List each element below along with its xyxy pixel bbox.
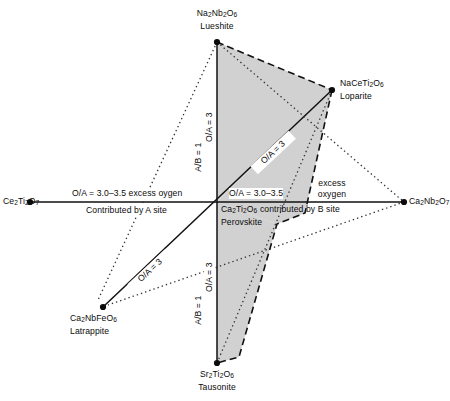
right-lower-annotation: contributed by B site — [260, 204, 340, 214]
ca2nb2o7-formula: Ca2Nb2O7 — [409, 196, 450, 206]
ce2ti2o7-formula: Ce2Ti2O7 — [3, 196, 39, 206]
vertex-dot-lueshite — [214, 39, 220, 45]
vertex-label-lueshite: Na2Nb2O6 Lueshite — [167, 8, 267, 31]
vertex-label-ca2nb2o7: Ca2Nb2O7 — [409, 196, 450, 209]
vertex-label-latrappite: Ca2NbFeO6 Latrappite — [70, 313, 117, 336]
vertex-label-perovskite: Ca2Ti2O6 contributed by B site Perovskit… — [221, 204, 340, 227]
excess-line-1: excess — [318, 178, 345, 188]
axis-label-lower-oa: O/A = 3 — [204, 249, 215, 305]
tausonite-formula: Sr2Ti2O6 — [200, 369, 234, 379]
excess-line-2: oxygen — [318, 189, 346, 199]
vertex-dot-latrappite — [100, 304, 106, 310]
vertex-dot-loparite — [329, 87, 335, 93]
annotation-right-upper: O/A = 3.0–3.5 — [229, 188, 283, 199]
vertex-label-loparite: NaCeTi2O6 Loparite — [340, 78, 384, 101]
perovskite-mineral: Perovskite — [221, 217, 262, 227]
vertex-dot-tausonite — [214, 360, 220, 366]
latrappite-formula: Ca2NbFeO6 — [70, 313, 117, 323]
loparite-formula: NaCeTi2O6 — [340, 78, 384, 88]
lueshite-mineral: Lueshite — [200, 21, 233, 31]
vertex-label-tausonite: Sr2Ti2O6 Tausonite — [167, 369, 267, 392]
tausonite-mineral: Tausonite — [198, 382, 236, 392]
vertex-label-ce2ti2o7: Ce2Ti2O7 — [3, 196, 39, 209]
annotation-left-lower: Contributed by A site — [86, 205, 167, 216]
axis-label-upper-ab: A/B = 1 — [193, 129, 204, 185]
vertex-dot-ca2nb2o7 — [401, 199, 407, 205]
annotation-left-upper: O/A = 3.0–3.5 excess oygen — [72, 188, 182, 199]
latrappite-mineral: Latrappite — [70, 326, 109, 336]
axis-label-lower-ab: A/B = 1 — [193, 282, 204, 338]
axis-label-upper-oa: O/A = 3 — [204, 99, 215, 155]
loparite-mineral: Loparite — [340, 91, 372, 101]
lueshite-formula: Na2Nb2O6 — [197, 8, 238, 18]
perovskite-formula: Ca2Ti2O6 — [221, 204, 257, 214]
annotation-excess-oxygen: excess oxygen — [303, 178, 361, 200]
